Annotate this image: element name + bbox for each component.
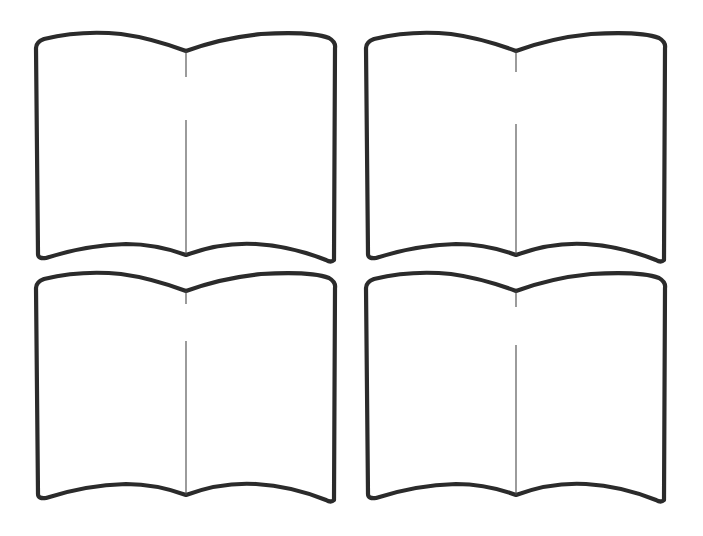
- open-book-outline-top-right: [356, 22, 668, 262]
- open-book-icon: [26, 22, 338, 262]
- open-book-outline-bottom-left: [26, 262, 338, 502]
- worksheet: [0, 0, 703, 536]
- open-book-outline-bottom-right: [356, 262, 668, 502]
- open-book-icon: [356, 262, 668, 502]
- open-book-icon: [26, 262, 338, 502]
- open-book-icon: [356, 22, 668, 262]
- open-book-outline-top-left: [26, 22, 338, 262]
